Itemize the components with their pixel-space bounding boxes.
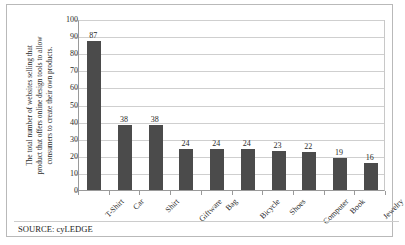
x-axis-tick-mark [293,191,294,195]
x-axis-tick-mark [354,191,355,195]
plot-area [78,20,385,191]
bar-value-label: 23 [263,141,293,150]
y-axis-title-line-3: consumers to create their own products. [45,19,55,192]
x-axis-tick-mark [324,191,325,195]
x-axis-tick-mark [232,191,233,195]
x-axis-tick-label: T-Shirt [104,197,126,219]
gridline [79,37,384,38]
x-axis-tick-label: Bag [224,197,239,212]
x-axis-tick-label: Shoes [287,197,307,217]
bar[interactable] [272,151,286,190]
y-axis-title-line-2: product that offers online design tools … [35,19,45,192]
bar-value-label: 22 [293,142,323,151]
x-axis-tick-label: Bicycle [258,197,282,221]
bar-value-label: 24 [232,139,262,148]
source-divider [14,221,399,222]
gridline [79,54,384,55]
x-axis-tick-mark [78,191,79,195]
x-axis-tick-label: Jewelry [381,197,405,221]
bar-value-label: 19 [324,148,354,157]
x-axis-tick-label: Book [348,197,367,216]
gridline [79,71,384,72]
x-axis-tick-mark [262,191,263,195]
chart-frame: The total number of websites selling tha… [6,4,393,237]
gridline [79,106,384,107]
bar-value-label: 87 [78,31,108,40]
bar-value-label: 38 [109,115,139,124]
bar[interactable] [210,149,224,190]
bar[interactable] [302,152,316,190]
bar[interactable] [118,125,132,190]
gridline [79,88,384,89]
gridline [79,20,384,21]
bar-value-label: 16 [355,153,385,162]
bar[interactable] [149,125,163,190]
x-axis-tick-mark [139,191,140,195]
bar[interactable] [333,158,347,190]
source-note: SOURCE: cyLEDGE [18,224,93,234]
bar[interactable] [241,149,255,190]
bar-value-label: 38 [140,115,170,124]
bar-value-label: 24 [170,139,200,148]
x-axis-tick-mark [109,191,110,195]
x-axis-tick-label: Car [131,197,146,212]
bar[interactable] [87,41,101,190]
x-axis-tick-mark [170,191,171,195]
x-axis-tick-label: Shirt [163,197,180,214]
x-axis-tick-mark [385,191,386,195]
bar[interactable] [179,149,193,190]
y-axis-title: The total number of websites selling tha… [25,19,59,192]
bar-value-label: 24 [201,139,231,148]
x-axis-tick-label: Giftware [198,197,224,223]
x-axis-tick-mark [201,191,202,195]
y-axis-title-line-1: The total number of websites selling tha… [25,19,35,192]
bar[interactable] [364,163,378,190]
